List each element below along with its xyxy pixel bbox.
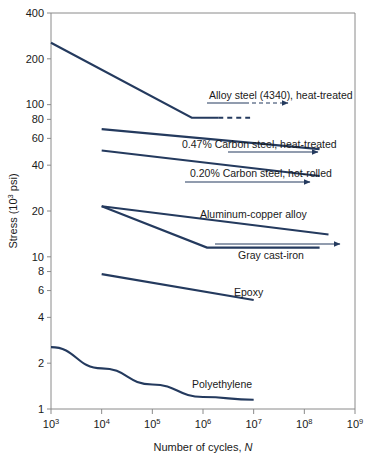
- y-tick-label: 40: [32, 159, 44, 171]
- annotation-label-0: Alloy steel (4340), heat-treated: [209, 89, 353, 101]
- y-tick-label: 4: [38, 311, 44, 323]
- y-tick-label: 400: [26, 7, 44, 19]
- x-tick-label: 103: [43, 417, 59, 431]
- y-axis-title: Stress (103 psi): [6, 173, 19, 248]
- y-tick-label: 8: [38, 265, 44, 277]
- y-tick-label: 80: [32, 113, 44, 125]
- y-tick-label: 20: [32, 205, 44, 217]
- y-tick-label: 100: [26, 98, 44, 110]
- x-tick-label: 105: [144, 417, 160, 431]
- x-tick-label: 106: [195, 417, 211, 431]
- y-tick-label: 6: [38, 284, 44, 296]
- y-tick-label: 1: [38, 403, 44, 415]
- x-tick-label: 108: [296, 417, 312, 431]
- annotation-label-2: 0.20% Carbon steel, hot-rolled: [190, 167, 332, 179]
- chart-annotations: Alloy steel (4340), heat-treated0.47% Ca…: [182, 89, 353, 390]
- series-line-6: [51, 347, 254, 400]
- y-tick-label: 200: [26, 53, 44, 65]
- series-line-5: [102, 274, 254, 300]
- annotation-label-4: Gray cast-iron: [238, 249, 304, 261]
- annotation-label-6: Polyethylene: [192, 378, 252, 390]
- x-tick-label: 109: [347, 417, 363, 431]
- y-tick-label: 10: [32, 251, 44, 263]
- x-axis-title: Number of cycles, N: [153, 441, 252, 453]
- annotation-label-5: Epoxy: [234, 286, 264, 298]
- y-tick-label: 2: [38, 357, 44, 369]
- x-tick-label: 107: [245, 417, 261, 431]
- y-tick-label: 60: [32, 132, 44, 144]
- series-line-0: [51, 43, 218, 118]
- annotation-label-3: Aluminum-copper alloy: [200, 208, 308, 220]
- sn-curve-chart: 4002001008060402010864211031041051061071…: [0, 0, 376, 459]
- annotation-label-1: 0.47% Carbon steel, heat-treated: [182, 138, 337, 150]
- chart-svg: 4002001008060402010864211031041051061071…: [0, 0, 376, 459]
- x-tick-label: 104: [93, 417, 109, 431]
